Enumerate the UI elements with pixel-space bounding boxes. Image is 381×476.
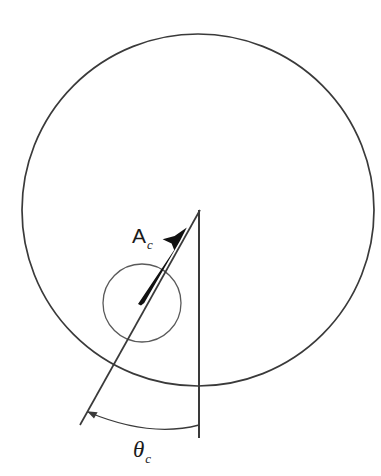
angle-arc-arrowhead bbox=[87, 411, 98, 418]
vector-label: Ac bbox=[132, 224, 153, 252]
diagram-canvas: Ac θc bbox=[0, 0, 381, 476]
angle-label-symbol: θ bbox=[133, 437, 144, 462]
vector-angle-diagram: Ac θc bbox=[0, 0, 381, 476]
angle-label: θc bbox=[133, 437, 151, 466]
angle-arc bbox=[88, 412, 199, 429]
vector-label-symbol: A bbox=[132, 224, 146, 247]
angle-label-subscript: c bbox=[145, 451, 151, 466]
vector-label-subscript: c bbox=[147, 237, 153, 252]
